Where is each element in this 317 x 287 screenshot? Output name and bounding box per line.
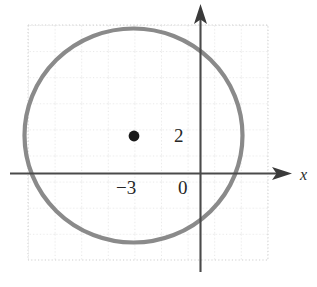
x-axis-label: x	[300, 167, 307, 183]
circle-center-point	[129, 131, 140, 142]
origin-label-0: 0	[178, 178, 188, 197]
background-grid	[28, 25, 268, 260]
y-tick-label-2: 2	[174, 126, 184, 145]
graph-canvas	[0, 0, 317, 287]
circle-graph-figure: 2 −3 0 x	[0, 0, 317, 287]
x-tick-label-minus-3: −3	[116, 178, 136, 197]
